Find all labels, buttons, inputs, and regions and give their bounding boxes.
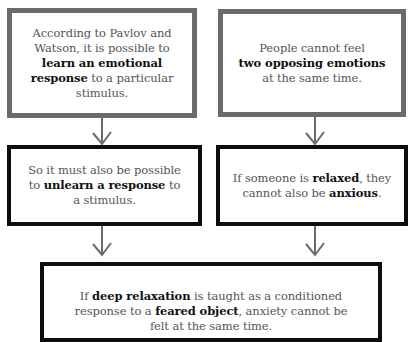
emphasis-text: unlearn a response xyxy=(44,178,166,192)
body-text: to xyxy=(29,178,44,192)
body-text: People cannot feel xyxy=(259,41,365,55)
body-text: If xyxy=(80,289,92,303)
final-conclusion-box: If deep relaxation is taught as a condit… xyxy=(40,262,382,342)
body-text: to a particular xyxy=(88,71,174,85)
body-text: a stimulus. xyxy=(73,193,136,207)
body-text: According to Pavlov and xyxy=(33,26,172,40)
body-text: If someone is xyxy=(233,171,313,185)
arrow-down-icon xyxy=(303,116,327,146)
body-text: . xyxy=(378,186,382,200)
emphasis-text: deep relaxation xyxy=(92,289,190,303)
emphasis-text: two opposing emotions xyxy=(239,56,386,70)
body-text: response to a xyxy=(75,304,156,318)
arrow-down-icon xyxy=(303,225,327,257)
emphasis-text: anxious xyxy=(329,186,378,200)
box-text: So it must also be possibleto unlearn a … xyxy=(28,163,181,208)
body-text: , anxiety cannot be xyxy=(239,304,348,318)
body-text: to xyxy=(165,178,180,192)
conclusion-unlearn-box: So it must also be possibleto unlearn a … xyxy=(7,145,202,226)
emphasis-text: relaxed xyxy=(312,171,359,185)
body-text: cannot also be xyxy=(242,186,329,200)
body-text: So it must also be possible xyxy=(28,163,181,177)
arrow-down-icon xyxy=(90,225,114,257)
emphasis-text: response xyxy=(31,71,88,85)
box-text: If someone is relaxed, theycannot also b… xyxy=(233,171,391,201)
body-text: stimulus. xyxy=(76,86,128,100)
body-text: at the same time. xyxy=(262,71,362,85)
emphasis-text: learn an emotional xyxy=(42,56,162,70)
box-text: People cannot feeltwo opposing emotionsa… xyxy=(239,41,386,86)
body-text: Watson, it is possible to xyxy=(34,41,169,55)
box-text: According to Pavlov andWatson, it is pos… xyxy=(31,26,174,101)
body-text: is taught as a conditioned xyxy=(190,289,342,303)
body-text: felt at the same time. xyxy=(150,319,272,333)
box-text: If deep relaxation is taught as a condit… xyxy=(75,289,348,334)
premise-pavlov-watson-box: According to Pavlov andWatson, it is pos… xyxy=(7,8,197,118)
premise-opposing-emotions-box: People cannot feeltwo opposing emotionsa… xyxy=(218,9,406,117)
conclusion-relaxed-anxious-box: If someone is relaxed, theycannot also b… xyxy=(216,145,408,226)
emphasis-text: feared object xyxy=(155,304,238,318)
arrow-down-icon xyxy=(90,116,114,146)
body-text: , they xyxy=(359,171,391,185)
